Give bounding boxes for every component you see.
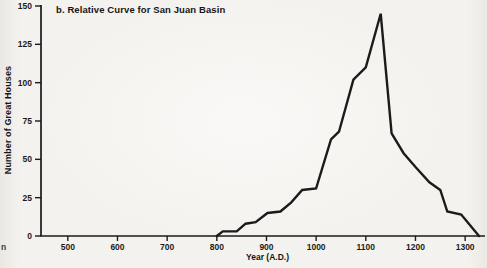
x-tick-label: 900 (259, 242, 273, 252)
y-tick-label: 150 (18, 1, 32, 11)
x-tick-label: 1000 (307, 242, 326, 252)
axis-lines (41, 5, 485, 236)
x-tick-label: 500 (61, 242, 75, 252)
x-tick-label: 700 (160, 242, 174, 252)
x-tick-label: 1100 (357, 242, 376, 252)
relative-curve-line (217, 14, 479, 236)
y-tick-label: 100 (18, 78, 32, 88)
x-tick-label: 800 (210, 242, 224, 252)
y-tick-label: 50 (23, 154, 33, 164)
line-chart-plot-area: 5006007008009001000110012001300025507510… (0, 0, 487, 268)
y-tick-label: 75 (23, 116, 33, 126)
scanned-chart-page: b. Relative Curve for San Juan Basin Num… (0, 0, 487, 268)
x-tick-label: 1200 (406, 242, 425, 252)
x-tick-label: 1300 (456, 242, 475, 252)
x-tick-label: 600 (110, 242, 124, 252)
y-tick-label: 125 (18, 39, 32, 49)
y-tick-label: 25 (23, 193, 33, 203)
y-tick-label: 0 (27, 231, 32, 241)
